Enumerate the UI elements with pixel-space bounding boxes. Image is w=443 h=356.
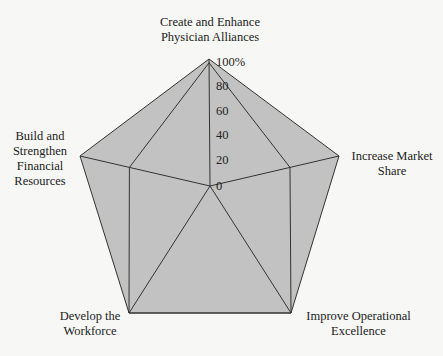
tick-label-0: 0 — [216, 180, 222, 192]
tick-label-20: 20 — [216, 154, 229, 166]
tick-label-60: 60 — [216, 105, 229, 117]
tick-label-40: 40 — [216, 129, 229, 141]
axis-label-operational-excellence: Improve Operational Excellence — [291, 309, 426, 339]
tick-label-100: 100% — [216, 56, 245, 68]
axis-label-physician-alliances: Create and Enhance Physician Alliances — [150, 15, 270, 45]
axis-label-develop-workforce: Develop the Workforce — [50, 309, 130, 339]
axis-label-market-share: Increase Market Share — [342, 149, 442, 179]
axis-label-financial-resources: Build and Strengthen Financial Resources — [0, 129, 80, 189]
tick-label-80: 80 — [216, 80, 229, 92]
